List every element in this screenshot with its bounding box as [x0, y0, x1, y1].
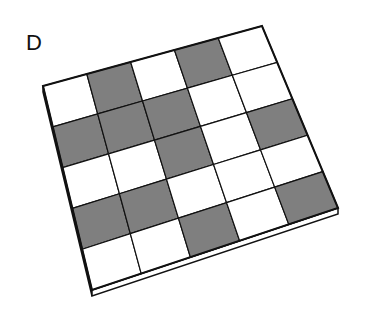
checker-board — [0, 0, 365, 310]
